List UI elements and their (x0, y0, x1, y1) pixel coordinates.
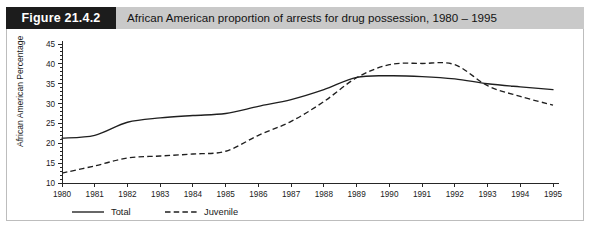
y-axis-tick-label: 20 (46, 139, 56, 148)
x-axis-tick-label: 1984 (184, 190, 203, 199)
x-axis: 1980198119821983198419851986198719881989… (53, 183, 563, 199)
figure-header: Figure 21.4.2 African American proportio… (6, 7, 584, 29)
x-axis-tick-label: 1980 (53, 190, 72, 199)
y-axis-tick-label: 10 (46, 179, 56, 188)
x-axis-tick-label: 1989 (347, 190, 366, 199)
line-chart: 1015202530354045 19801981198219831984198… (7, 29, 583, 219)
x-axis-tick-label: 1986 (249, 190, 268, 199)
figure-plot-panel: 1015202530354045 19801981198219831984198… (6, 29, 584, 221)
x-axis-tick-label: 1991 (413, 190, 432, 199)
y-axis-tick-label: 30 (46, 100, 56, 109)
y-axis-tick-label: 25 (46, 119, 56, 128)
x-axis-tick-label: 1990 (380, 190, 399, 199)
figure-caption: African American proportion of arrests f… (116, 7, 497, 29)
y-axis: 1015202530354045 (46, 40, 62, 188)
x-axis-tick-label: 1992 (446, 190, 465, 199)
series-line-total (62, 76, 553, 138)
x-axis-tick-label: 1981 (86, 190, 105, 199)
chart-svg: 1015202530354045 19801981198219831984198… (7, 29, 583, 219)
x-axis-tick-label: 1988 (315, 190, 334, 199)
x-axis-tick-label: 1994 (511, 190, 530, 199)
x-axis-tick-label: 1983 (151, 190, 170, 199)
x-axis-tick-label: 1982 (118, 190, 137, 199)
x-axis-tick-label: 1987 (282, 190, 301, 199)
x-axis-tick-label: 1985 (217, 190, 236, 199)
x-axis-tick-label: 1993 (478, 190, 497, 199)
y-axis-tick-label: 40 (46, 60, 56, 69)
legend-label-total: Total (111, 207, 131, 217)
chart-legend: TotalJuvenile (72, 207, 238, 217)
y-axis-tick-label: 45 (46, 40, 56, 49)
data-series-group (62, 63, 553, 173)
y-axis-tick-label: 15 (46, 159, 56, 168)
y-axis-tick-label: 35 (46, 80, 56, 89)
series-line-juvenile (62, 63, 553, 173)
y-axis-title: African American Percentage (15, 35, 25, 147)
legend-label-juvenile: Juvenile (204, 207, 238, 217)
figure-number-badge: Figure 21.4.2 (6, 7, 116, 29)
figure-container: Figure 21.4.2 African American proportio… (0, 0, 592, 228)
x-axis-tick-label: 1995 (544, 190, 563, 199)
